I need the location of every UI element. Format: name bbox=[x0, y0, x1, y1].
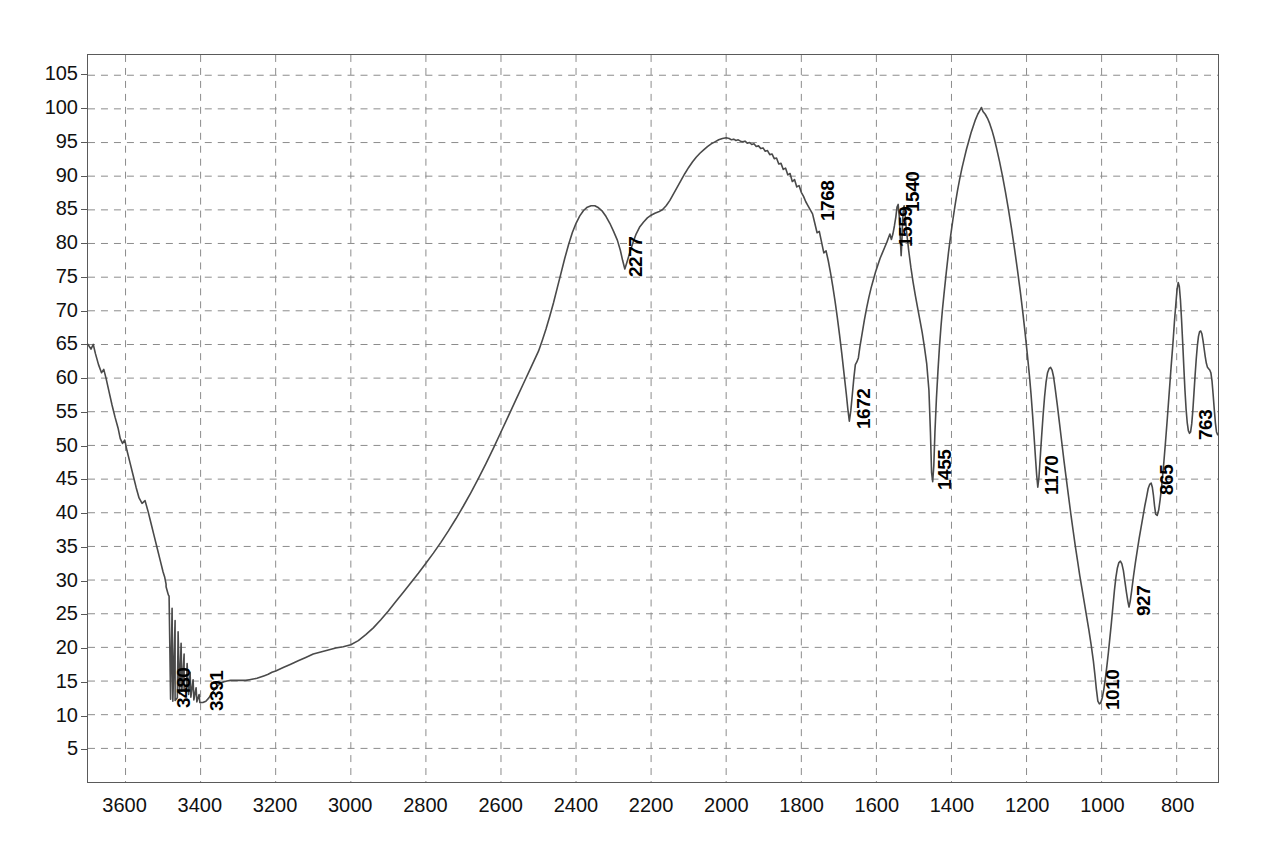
x-tick-label: 1800 bbox=[779, 795, 824, 815]
peak-label-3480: 3480 bbox=[174, 668, 193, 708]
x-tick-label: 1400 bbox=[930, 795, 975, 815]
x-tick-label: 2800 bbox=[403, 795, 448, 815]
x-tick-label: 3600 bbox=[102, 795, 147, 815]
peak-label-1559: 1559 bbox=[896, 207, 915, 247]
peak-label-2277: 2277 bbox=[626, 236, 645, 276]
x-tick-label: 1200 bbox=[1005, 795, 1050, 815]
x-tick-label: 3000 bbox=[328, 795, 373, 815]
peak-label-865: 865 bbox=[1157, 465, 1176, 495]
peak-label-1768: 1768 bbox=[818, 181, 837, 221]
peak-label-927: 927 bbox=[1134, 585, 1153, 615]
x-tick-label: 1600 bbox=[855, 795, 900, 815]
x-tick-label: 3400 bbox=[178, 795, 223, 815]
ir-spectrum-chart: 5101520253035404550556065707580859095100… bbox=[0, 0, 1269, 844]
peak-label-1010: 1010 bbox=[1103, 670, 1122, 710]
peak-label-763: 763 bbox=[1196, 410, 1215, 440]
x-tick-label: 3200 bbox=[253, 795, 298, 815]
spectrum-curve bbox=[88, 55, 1218, 782]
x-tick-label: 800 bbox=[1161, 795, 1194, 815]
peak-label-1540: 1540 bbox=[903, 172, 922, 212]
plot-area bbox=[87, 54, 1219, 783]
x-tick-label: 2000 bbox=[704, 795, 749, 815]
x-tick-label: 1000 bbox=[1080, 795, 1125, 815]
transmittance-trace bbox=[88, 108, 1218, 704]
x-tick-label: 2200 bbox=[629, 795, 674, 815]
peak-label-1672: 1672 bbox=[854, 389, 873, 429]
peak-label-3391: 3391 bbox=[207, 671, 226, 711]
peak-label-1170: 1170 bbox=[1042, 456, 1061, 495]
x-tick-label: 2400 bbox=[554, 795, 599, 815]
x-tick-label: 2600 bbox=[478, 795, 523, 815]
peak-label-1455: 1455 bbox=[935, 450, 954, 490]
